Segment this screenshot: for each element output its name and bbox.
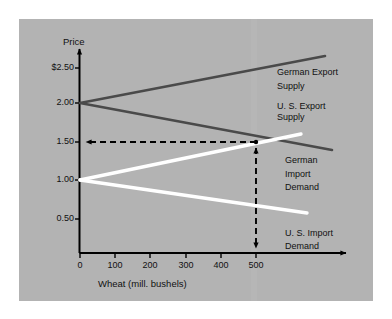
x-axis-title: Wheat (mill. bushels) [98,278,187,289]
y-tick-label-0-50: 0.50 [39,213,74,224]
y-tick-label-1-50: 1.50 [39,136,74,147]
series-us-import-demand [80,180,307,213]
x-tick-label-200: 200 [140,260,160,271]
german-import-demand-label-line2: Import [285,169,311,181]
y-tick-label-2-00: 2.00 [39,97,74,108]
us-import-demand-label-line2: Demand [285,241,319,253]
x-tick-label-300: 300 [176,260,196,271]
chart-plot-area [0,0,392,319]
us-export-supply-label-line1: U. S. Export [277,101,326,113]
y-axis-title: Price [63,36,85,47]
equilibrium-point [254,140,258,144]
series-german-export-supply [80,56,325,103]
x-tick-label-400: 400 [211,260,231,271]
german-import-demand-label-line3: Demand [285,182,319,194]
us-import-demand-label-line1: U. S. Import [285,228,333,240]
german-export-supply-label-line1: German Export [277,67,338,79]
german-export-supply-label-line2: Supply [277,81,305,93]
y-tick-label-1-00: 1.00 [39,174,74,185]
x-tick-label-100: 100 [105,260,125,271]
x-tick-label-0: 0 [70,260,90,271]
series-german-import-demand [80,134,301,180]
y-tick-label-2-50: $2.50 [39,62,74,73]
x-tick-label-500: 500 [246,260,266,271]
us-export-supply-label-line2: Supply [277,112,305,124]
german-import-demand-label-line1: German [285,155,318,167]
chart-figure: Price $2.50 2.00 1.50 1.00 0.50 0 100 20… [0,0,392,319]
